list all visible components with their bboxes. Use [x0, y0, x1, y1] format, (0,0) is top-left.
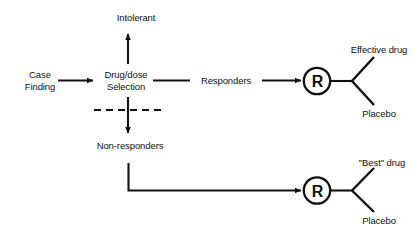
- fork-branch-best-drug: [352, 168, 374, 191]
- flowchart-diagram: Case Finding Drug/dose Selection Intoler…: [0, 0, 419, 234]
- edge-non-responders-to-randomize: [129, 163, 302, 191]
- fork-branch-placebo-top: [352, 81, 374, 105]
- node-label-responders: Responders: [201, 75, 251, 86]
- node-label-non-responders: Non-responders: [97, 140, 164, 151]
- node-label-best-drug: "Best" drug: [359, 157, 405, 168]
- node-label-placebo-bottom: Placebo: [362, 215, 396, 226]
- node-label-placebo-top: Placebo: [362, 108, 396, 119]
- fork-branch-placebo-bottom: [352, 191, 374, 213]
- randomization-label-bottom: R: [312, 184, 324, 200]
- node-label-effective-drug: Effective drug: [351, 44, 408, 55]
- node-label-case-finding: Case Finding: [25, 69, 55, 92]
- node-label-intolerant: Intolerant: [117, 12, 156, 23]
- fork-branch-effective-drug: [352, 57, 374, 81]
- randomization-label-top: R: [312, 74, 324, 90]
- diagram-canvas: [0, 0, 419, 234]
- node-label-drug-dose-selection: Drug/dose Selection: [105, 69, 148, 92]
